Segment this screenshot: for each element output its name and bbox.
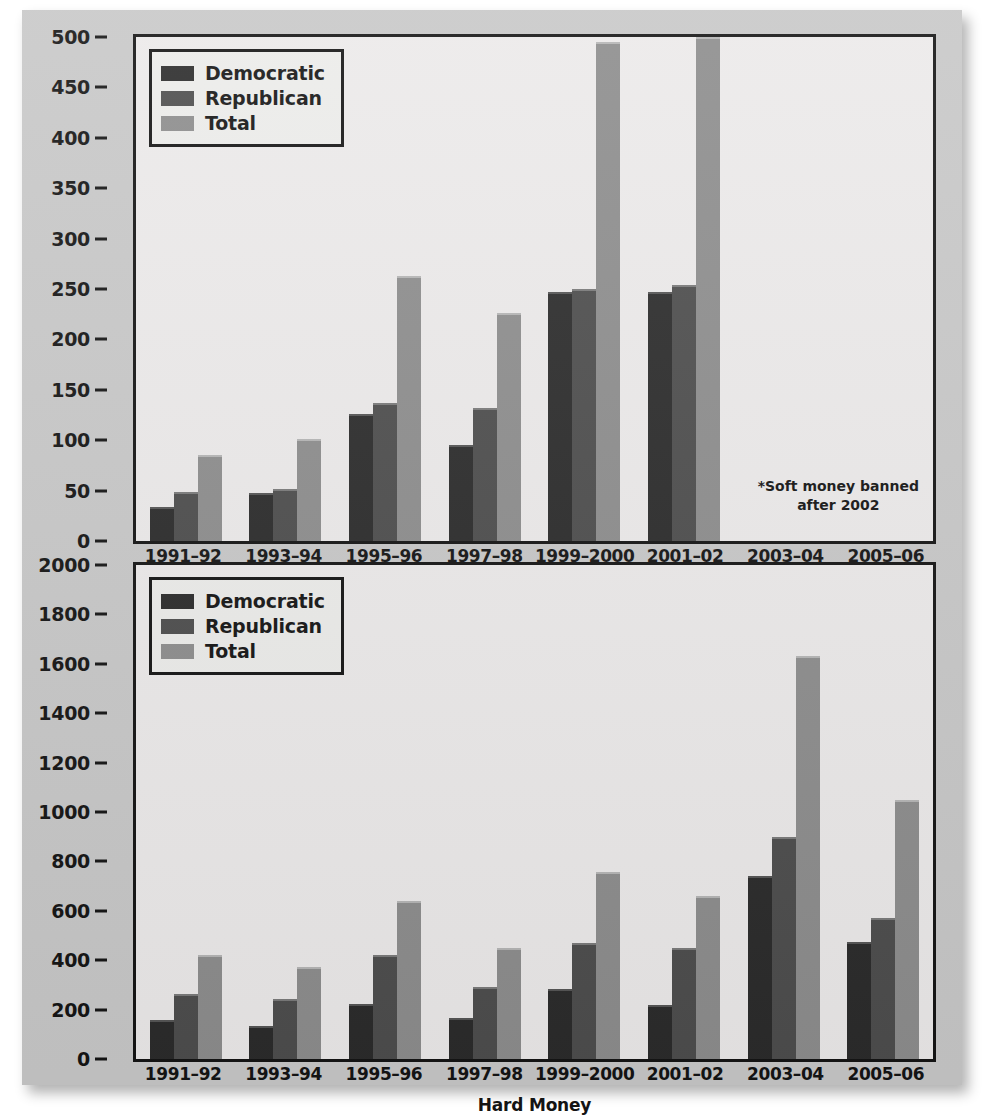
y-tick-label: 50 [64,480,90,502]
bar-group [236,967,336,1059]
legend-label-democratic: Democratic [205,590,325,612]
bar-total [397,901,421,1059]
bar-republican [871,918,895,1059]
x-tick-label: 1997–98 [446,1064,523,1084]
bar-republican [174,994,198,1059]
y-tick-label: 500 [51,26,90,48]
bar-total [596,872,620,1059]
y-tick-label: 600 [51,900,90,922]
y-tick-label: 0 [77,1048,90,1070]
y-tick-label: 1000 [38,801,90,823]
bar-democratic [349,1004,373,1059]
bar-total [696,37,720,541]
bar-democratic [548,292,572,541]
bar-total [297,439,321,541]
legend-item-democratic: Democratic [161,62,325,84]
x-tick-label: 2003–04 [747,1064,824,1084]
bar-total [497,948,521,1059]
legend-label-democratic: Democratic [205,62,325,84]
y-tick-label: 300 [51,228,90,250]
annotation-soft-money-banned: *Soft money banned after 2002 [758,477,919,515]
legend-item-republican: Republican [161,87,325,109]
bar-total [397,276,421,541]
x-tick-label: 1999–2000 [535,1064,635,1084]
y-tick-label: 200 [51,999,90,1021]
legend-label-republican: Republican [205,87,322,109]
y-tick-label: 1200 [38,752,90,774]
bar-democratic [648,1005,672,1059]
bar-total [895,800,919,1059]
bar-total [198,455,222,541]
bar-democratic [150,1020,174,1059]
legend-swatch-total-icon [161,644,194,659]
bar-republican [273,999,297,1059]
poster-page: 050100150200250300350400450500 Democrati… [22,10,962,1085]
legend-item-republican: Republican [161,615,325,637]
bar-democratic [748,876,772,1059]
legend-label-total: Total [205,640,256,662]
bar-democratic [349,414,373,541]
plot-area-soft-money: Democratic Republican Total *Soft money … [133,34,936,544]
bar-republican [572,943,596,1059]
bar-group [634,37,734,541]
bar-democratic [249,1026,273,1059]
bar-group [335,276,435,541]
legend-hard-money: Democratic Republican Total [149,577,344,675]
bar-group [535,42,635,541]
bar-republican [572,289,596,541]
legend-label-republican: Republican [205,615,322,637]
bar-republican [672,285,696,541]
x-axis-hard-money: 1991–921993–941995–961997–981999–2000200… [133,1064,936,1090]
bar-group [535,872,635,1059]
chart-soft-money: 050100150200250300350400450500 Democrati… [22,34,962,544]
y-tick-label: 1800 [38,603,90,625]
y-axis-soft-money: 050100150200250300350400450500 [22,34,110,544]
y-tick-label: 400 [51,949,90,971]
bar-democratic [648,292,672,541]
bar-republican [373,403,397,541]
bar-republican [174,492,198,541]
bar-democratic [449,1018,473,1059]
x-tick-label: 1991–92 [145,1064,222,1084]
bar-group [435,948,535,1059]
chart-hard-money: 0200400600800100012001400160018002000 De… [22,562,962,1062]
bar-democratic [847,942,871,1059]
bar-total [297,967,321,1059]
bar-group [335,901,435,1059]
legend-item-total: Total [161,112,325,134]
bar-total [796,656,820,1059]
bar-group [136,955,236,1059]
bar-total [198,955,222,1059]
bar-democratic [150,507,174,541]
y-tick-label: 1600 [38,653,90,675]
bar-republican [273,489,297,541]
bar-group [136,455,236,541]
bar-republican [473,408,497,541]
x-tick-label: 1995–96 [346,1064,423,1084]
bar-democratic [249,493,273,541]
bar-group [634,896,734,1059]
y-tick-label: 250 [51,278,90,300]
bar-group [833,800,933,1059]
axis-title-hard-money: Hard Money [133,1095,936,1115]
bar-total [696,896,720,1059]
y-tick-label: 100 [51,429,90,451]
x-tick-label: 2001–02 [647,1064,724,1084]
legend-swatch-democratic-icon [161,594,194,609]
bar-group [236,439,336,541]
x-tick-label: 1993–94 [245,1064,322,1084]
x-tick-label: 2005–06 [847,1064,924,1084]
bar-democratic [548,989,572,1059]
y-tick-label: 450 [51,76,90,98]
legend-swatch-democratic-icon [161,66,194,81]
y-tick-label: 1400 [38,702,90,724]
y-tick-label: 150 [51,379,90,401]
bar-group [734,656,834,1059]
annotation-line-1: *Soft money banned [758,477,919,496]
plot-area-hard-money: Democratic Republican Total [133,562,936,1062]
bar-total [497,313,521,541]
legend-item-democratic: Democratic [161,590,325,612]
y-tick-label: 400 [51,127,90,149]
y-tick-label: 800 [51,850,90,872]
legend-item-total: Total [161,640,325,662]
